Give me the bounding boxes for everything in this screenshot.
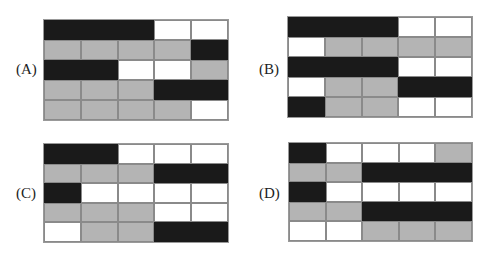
grid-cell	[362, 202, 399, 222]
grid-cell	[362, 77, 399, 97]
grid-cell	[398, 57, 435, 77]
grid-cell	[362, 57, 399, 77]
grid-cell	[118, 144, 155, 164]
grid-cell	[191, 144, 228, 164]
grid-cell	[44, 144, 81, 164]
grid-cell	[81, 164, 118, 184]
grid-cell	[289, 202, 326, 222]
grid-cell	[154, 183, 191, 203]
option-label-c: (C)	[16, 186, 36, 201]
grid-cell	[154, 100, 191, 120]
grid-cell	[289, 182, 326, 202]
grid-cell	[81, 60, 118, 80]
grid-cell	[362, 163, 399, 183]
grid-cell	[81, 80, 118, 100]
grid-cell	[435, 202, 472, 222]
grid-cell	[288, 17, 325, 37]
grid-cell	[154, 144, 191, 164]
grid-cell	[118, 20, 155, 40]
grid-cell	[191, 183, 228, 203]
option-label-b: (B)	[259, 62, 279, 77]
grid-cell	[118, 100, 155, 120]
grid-cell	[81, 144, 118, 164]
grid-cell	[288, 57, 325, 77]
grid-cell	[362, 37, 399, 57]
grid-cell	[362, 143, 399, 163]
grid-cell	[154, 20, 191, 40]
grid-cell	[435, 17, 472, 37]
grid-cell	[326, 143, 363, 163]
grid-cell	[398, 97, 435, 117]
grid-cell	[191, 60, 228, 80]
option-grid-d	[288, 142, 473, 242]
grid-cell	[435, 221, 472, 241]
grid-cell	[191, 40, 228, 60]
grid-cell	[191, 80, 228, 100]
grid-cell	[118, 80, 155, 100]
grid-cell	[362, 221, 399, 241]
grid-cell	[435, 77, 472, 97]
grid-cell	[362, 97, 399, 117]
grid-cell	[44, 60, 81, 80]
grid-cell	[118, 164, 155, 184]
grid-cell	[398, 37, 435, 57]
grid-cell	[325, 37, 362, 57]
grid-cell	[325, 97, 362, 117]
grid-cell	[154, 60, 191, 80]
option-grid-a	[43, 19, 229, 121]
grid-cell	[288, 77, 325, 97]
grid-cell	[44, 183, 81, 203]
grid-cell	[81, 222, 118, 242]
grid-cell	[289, 221, 326, 241]
grid-cell	[435, 182, 472, 202]
grid-cell	[44, 80, 81, 100]
grid-cell	[326, 202, 363, 222]
grid-cell	[362, 182, 399, 202]
grid-cell	[118, 40, 155, 60]
grid-cell	[435, 163, 472, 183]
grid-cell	[326, 221, 363, 241]
grid-cell	[81, 40, 118, 60]
grid-cell	[288, 37, 325, 57]
grid-cell	[399, 221, 436, 241]
grid-cell	[191, 222, 228, 242]
grid-cell	[325, 17, 362, 37]
grid-cell	[154, 40, 191, 60]
grid-cell	[435, 57, 472, 77]
grid-cell	[399, 163, 436, 183]
grid-cell	[44, 20, 81, 40]
grid-cell	[118, 183, 155, 203]
grid-cell	[325, 57, 362, 77]
grid-cell	[326, 182, 363, 202]
grid-cell	[289, 163, 326, 183]
grid-cell	[289, 143, 326, 163]
grid-cell	[288, 97, 325, 117]
grid-cell	[399, 182, 436, 202]
grid-cell	[399, 202, 436, 222]
grid-cell	[118, 60, 155, 80]
grid-cell	[191, 203, 228, 223]
grid-cell	[118, 203, 155, 223]
grid-cell	[154, 164, 191, 184]
option-grid-b	[287, 16, 473, 118]
grid-cell	[44, 40, 81, 60]
grid-cell	[435, 97, 472, 117]
grid-cell	[191, 100, 228, 120]
grid-cell	[362, 17, 399, 37]
grid-cell	[435, 37, 472, 57]
grid-cell	[325, 77, 362, 97]
grid-cell	[399, 143, 436, 163]
grid-cell	[81, 183, 118, 203]
grid-cell	[44, 164, 81, 184]
option-label-a: (A)	[16, 62, 37, 77]
grid-cell	[154, 222, 191, 242]
grid-cell	[154, 203, 191, 223]
grid-cell	[44, 222, 81, 242]
grid-cell	[81, 203, 118, 223]
grid-cell	[44, 203, 81, 223]
grid-cell	[118, 222, 155, 242]
grid-cell	[191, 20, 228, 40]
option-grid-c	[43, 143, 229, 243]
option-label-d: (D)	[259, 186, 280, 201]
grid-cell	[81, 100, 118, 120]
